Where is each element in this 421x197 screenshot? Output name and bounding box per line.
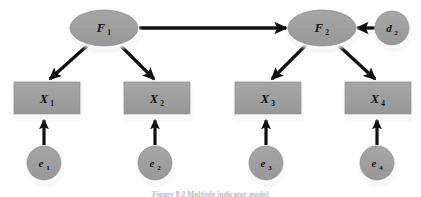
factor-F1-subscript: 1 (107, 28, 111, 37)
error-e3-shape (249, 146, 283, 180)
indicator-X1-label: X (39, 92, 49, 106)
error-e3-subscript: 3 (268, 164, 272, 172)
factor-node-F1[interactable]: F 1 (70, 10, 138, 46)
factor-F1-label: F (96, 21, 106, 35)
error-e1-subscript: 1 (46, 164, 50, 172)
indicator-X3-label: X (260, 92, 270, 106)
indicator-X2-label: X (149, 92, 159, 106)
error-e3-label: e (261, 157, 266, 169)
disturbance-d2-label: d (386, 22, 392, 34)
path-diagram-figure: F 1 F 2 d 2 X 1 X 2 X 3 (0, 0, 421, 197)
disturbance-node-d2[interactable]: d 2 (375, 11, 409, 45)
edge-F2-to-X4 (337, 44, 375, 79)
edge-F1-to-X2 (119, 44, 154, 79)
diagram-canvas: F 1 F 2 d 2 X 1 X 2 X 3 (0, 0, 421, 197)
edge-F1-to-X1 (50, 44, 89, 79)
error-e1-shape (27, 146, 61, 180)
error-node-e3[interactable]: e 3 (249, 146, 283, 180)
edge-F2-to-X3 (272, 44, 307, 79)
indicator-X4-subscript: 4 (381, 99, 385, 108)
indicator-X4-label: X (370, 92, 380, 106)
factor-node-F2[interactable]: F 2 (288, 10, 356, 46)
error-e2-subscript: 2 (157, 164, 161, 172)
error-node-e1[interactable]: e 1 (27, 146, 61, 180)
indicator-node-X3[interactable]: X 3 (235, 82, 301, 114)
factor-F2-label: F (314, 21, 324, 35)
disturbance-d2-shape (375, 11, 409, 45)
error-e4-label: e (372, 157, 377, 169)
error-e2-label: e (150, 157, 155, 169)
error-e4-shape (360, 146, 394, 180)
indicator-node-X1[interactable]: X 1 (14, 82, 80, 114)
indicator-X3-subscript: 3 (271, 99, 275, 108)
error-e4-subscript: 4 (379, 164, 383, 172)
error-node-e2[interactable]: e 2 (138, 146, 172, 180)
indicator-X2-subscript: 2 (160, 99, 164, 108)
error-e2-shape (138, 146, 172, 180)
indicator-node-X4[interactable]: X 4 (345, 82, 411, 114)
error-node-e4[interactable]: e 4 (360, 146, 394, 180)
figure-caption: Figure 8.2 Multiple indicator model (0, 190, 421, 197)
indicator-node-X2[interactable]: X 2 (124, 82, 190, 114)
error-e1-label: e (39, 157, 44, 169)
factor-F2-subscript: 2 (325, 28, 329, 37)
indicator-X1-subscript: 1 (50, 99, 54, 108)
disturbance-d2-subscript: 2 (394, 29, 398, 37)
